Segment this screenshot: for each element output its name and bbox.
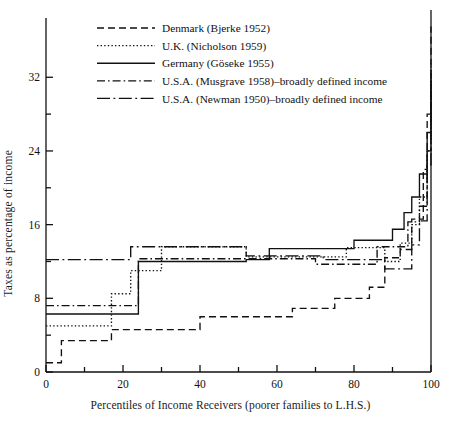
y-tick-label: 16: [29, 219, 41, 231]
y-tick-label: 8: [34, 292, 40, 304]
y-tick-label: 0: [34, 366, 40, 378]
y-tick-label: 32: [29, 71, 41, 83]
series-line-3: [46, 82, 431, 306]
y-tick-label: 24: [29, 145, 41, 157]
x-axis-label: Percentiles of Income Receivers (poorer …: [0, 399, 461, 411]
legend-label-1: U.K. (Nicholson 1959): [162, 40, 266, 53]
legend-label-4: U.S.A. (Newman 1950)–broadly defined inc…: [162, 93, 383, 106]
x-tick-label: 60: [271, 378, 283, 390]
x-tick-label: 0: [43, 378, 49, 390]
legend-label-3: U.S.A. (Musgrave 1958)–broadly defined i…: [162, 75, 387, 88]
x-tick-label: 20: [117, 378, 129, 390]
x-tick-label: 100: [422, 378, 440, 390]
legend-label-2: Germany (Göseke 1955): [162, 57, 274, 70]
chart-canvas: 08162432020406080100 Denmark (Bjerke 195…: [0, 0, 461, 425]
x-tick-label: 40: [194, 378, 206, 390]
chart-figure: 08162432020406080100 Denmark (Bjerke 195…: [0, 0, 461, 425]
legend-label-0: Denmark (Bjerke 1952): [162, 22, 270, 35]
chart-legend: Denmark (Bjerke 1952)U.K. (Nicholson 195…: [97, 22, 387, 105]
series-line-4: [46, 91, 431, 269]
y-axis-label: Taxes as percentage of income: [2, 150, 14, 297]
series-line-2: [46, 73, 431, 314]
x-tick-label: 80: [348, 378, 360, 390]
